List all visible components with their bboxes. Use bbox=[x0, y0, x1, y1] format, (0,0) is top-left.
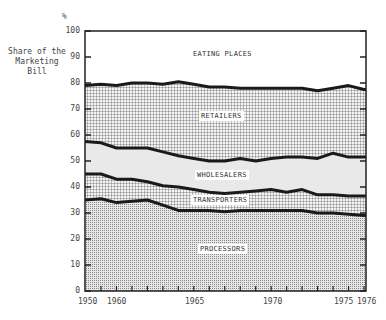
area-eating-places bbox=[85, 31, 366, 91]
label-retailers: RETAILERS bbox=[199, 111, 244, 121]
label-processors: PROCESSORS bbox=[198, 244, 247, 254]
label-wholesalers: WHOLESALERS bbox=[195, 170, 249, 180]
label-eating-places: EATING PLACES bbox=[191, 49, 254, 59]
label-transporters: TRANSPORTERS bbox=[191, 195, 249, 205]
stacked-area-plot bbox=[0, 0, 386, 320]
